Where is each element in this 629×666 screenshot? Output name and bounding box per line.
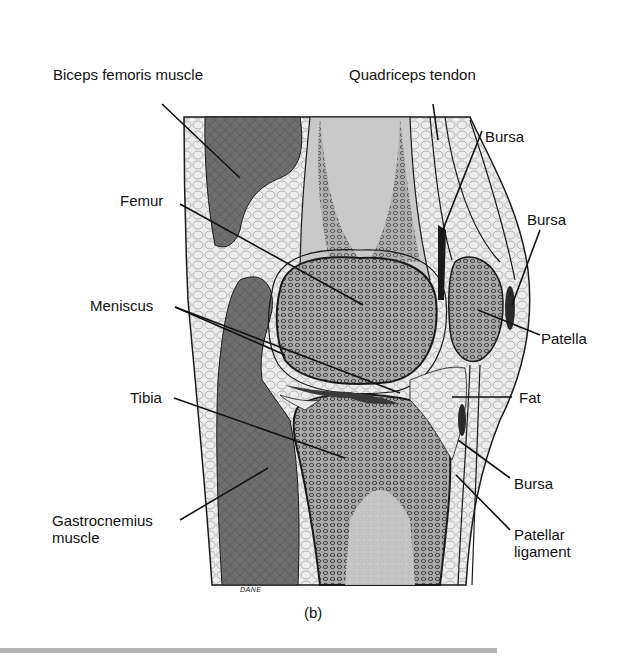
label-bursa-upper: Bursa: [485, 128, 524, 145]
infrapatellar-bursa-shape: [458, 404, 466, 436]
figure-caption: (b): [304, 604, 322, 621]
femur-condyle: [277, 257, 437, 384]
label-gastrocnemius: Gastrocnemius muscle: [52, 512, 153, 546]
label-patella: Patella: [541, 330, 587, 347]
label-femur: Femur: [120, 192, 163, 209]
label-meniscus: Meniscus: [90, 297, 153, 314]
label-tibia: Tibia: [130, 389, 162, 406]
label-gastrocnemius-line1: Gastrocnemius: [52, 512, 153, 529]
label-biceps-femoris: Biceps femoris muscle: [53, 66, 203, 83]
artist-signature: DANE: [240, 586, 261, 593]
label-patellar-ligament: Patellar ligament: [514, 526, 571, 560]
knee-sagittal-illustration: [0, 0, 629, 666]
label-fat: Fat: [519, 389, 541, 406]
label-patellar-ligament-line1: Patellar: [514, 526, 571, 543]
label-patellar-ligament-line2: ligament: [514, 543, 571, 560]
bottom-rule: [0, 648, 497, 653]
label-quadriceps-tendon: Quadriceps tendon: [349, 66, 476, 83]
label-bursa-prepatellar: Bursa: [527, 211, 566, 228]
label-bursa-infrapatellar: Bursa: [514, 475, 553, 492]
label-gastrocnemius-line2: muscle: [52, 529, 153, 546]
